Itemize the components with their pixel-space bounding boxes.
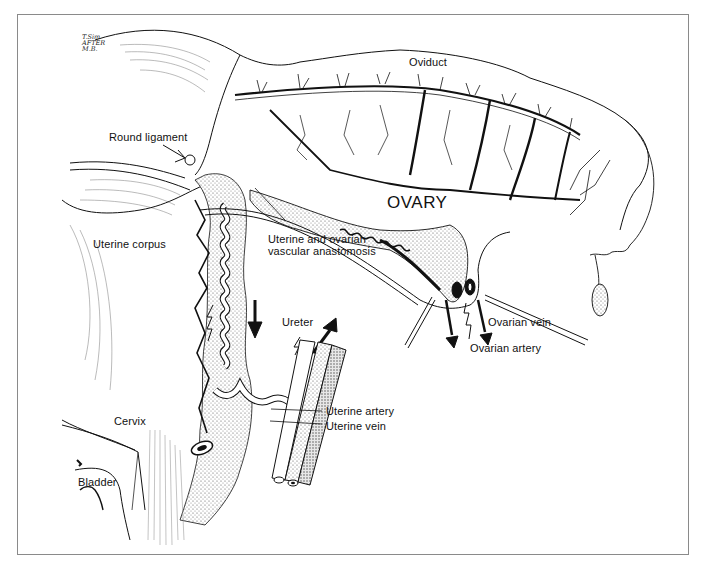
oviduct-branches (257, 72, 572, 128)
hatching (70, 44, 210, 390)
label-oviduct: Oviduct (409, 56, 447, 68)
label-round-ligament: Round ligament (109, 131, 187, 143)
label-ovary: OVARY (387, 194, 447, 212)
cervix-hatch (148, 430, 184, 545)
label-bladder: Bladder (78, 476, 117, 488)
label-ureter: Ureter (282, 316, 313, 328)
label-uterine-corpus: Uterine corpus (93, 238, 166, 250)
label-uterine-vein: Uterine vein (326, 420, 386, 432)
ovarian-flow-arrows (446, 300, 492, 348)
round-ligament-arrow (163, 145, 195, 165)
label-anastomosis-line1: Uterine and ovarian (268, 233, 366, 245)
label-ovarian-vein: Ovarian vein (488, 316, 551, 328)
artist-signature: T.Sim AFTER M.B. (82, 34, 105, 52)
label-ovarian-artery: Ovarian artery (470, 342, 541, 354)
fimbria (590, 120, 654, 290)
cervix-bladder (62, 425, 145, 510)
label-cervix: Cervix (114, 415, 146, 427)
label-uterine-artery: Uterine artery (326, 405, 394, 417)
ovarian-cyst-appendix (592, 284, 608, 316)
label-anastomosis-line2: vascular anastomosis (268, 245, 376, 257)
